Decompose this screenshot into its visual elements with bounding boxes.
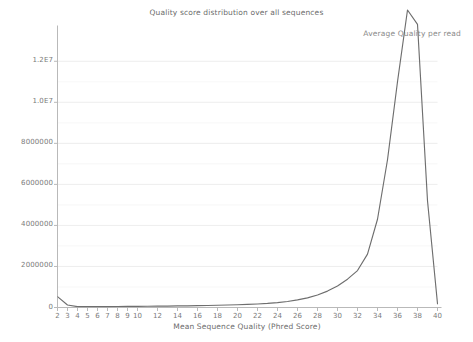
x-tick-label: 28 — [313, 312, 322, 320]
x-tick-label: 30 — [333, 312, 342, 320]
x-tick-label: 36 — [393, 312, 402, 320]
x-tick-label: 12 — [153, 312, 162, 320]
x-tick-label: 7 — [105, 312, 110, 320]
x-tick-label: 6 — [95, 312, 100, 320]
x-tick-label: 14 — [173, 312, 182, 320]
x-tick-label: 18 — [213, 312, 222, 320]
x-tick-label: 20 — [233, 312, 242, 320]
x-tick-label: 10 — [133, 312, 142, 320]
x-tick-label: 38 — [413, 312, 422, 320]
x-axis-tick-labels: 2345678910121416182022242628303234363840 — [0, 0, 473, 342]
x-tick-label: 5 — [85, 312, 90, 320]
x-tick-label: 32 — [353, 312, 362, 320]
x-tick-label: 26 — [293, 312, 302, 320]
x-tick-label: 3 — [65, 312, 70, 320]
x-tick-label: 9 — [125, 312, 130, 320]
x-tick-label: 16 — [193, 312, 202, 320]
quality-score-distribution-chart: Quality score distribution over all sequ… — [0, 0, 473, 342]
x-tick-label: 2 — [55, 312, 60, 320]
x-tick-label: 4 — [75, 312, 80, 320]
x-tick-label: 34 — [373, 312, 382, 320]
x-axis-title: Mean Sequence Quality (Phred Score) — [57, 322, 437, 331]
x-tick-label: 40 — [433, 312, 442, 320]
x-tick-label: 22 — [253, 312, 262, 320]
x-tick-label: 24 — [273, 312, 282, 320]
x-tick-label: 8 — [115, 312, 120, 320]
